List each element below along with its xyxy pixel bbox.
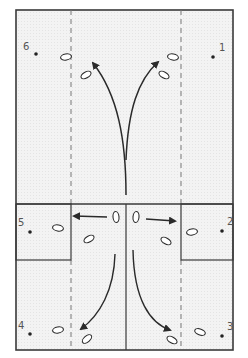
court-floor	[16, 10, 233, 350]
position-marker-6	[34, 52, 38, 56]
position-marker-3	[220, 334, 224, 338]
position-marker-2	[220, 229, 224, 233]
position-label-4: 4	[18, 321, 24, 331]
position-label-3: 3	[227, 322, 233, 332]
footprint-icon	[113, 211, 120, 222]
position-marker-4	[28, 332, 32, 336]
footprint-icon	[133, 211, 140, 222]
court-diagram	[0, 0, 248, 358]
position-marker-5	[28, 230, 32, 234]
position-label-6: 6	[23, 42, 29, 52]
arrow-left	[74, 216, 107, 217]
position-label-5: 5	[18, 218, 24, 228]
position-label-2: 2	[227, 217, 233, 227]
position-marker-1	[211, 55, 215, 59]
position-label-1: 1	[219, 43, 225, 53]
